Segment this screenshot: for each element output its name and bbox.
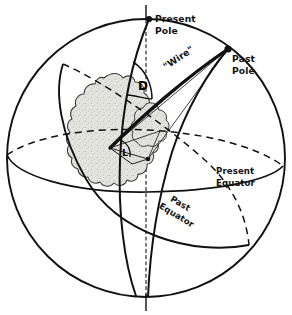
diagram-canvas: Present Pole Past Pole "Wire" D L Presen… — [0, 0, 292, 315]
inclination-angle-label: L — [122, 147, 128, 158]
present-pole-label-line1: Present — [155, 13, 196, 24]
paleomagnetic-sphere-figure: Present Pole Past Pole "Wire" D L Presen… — [0, 0, 292, 315]
present-equator-label-line1: Present — [216, 166, 254, 176]
declination-angle-label: D — [138, 79, 148, 93]
site-marker — [146, 157, 151, 162]
past-pole-label-line2: Pole — [232, 65, 255, 76]
present-pole-label-line2: Pole — [155, 25, 178, 36]
past-pole-label-line1: Past — [232, 53, 255, 64]
present-pole-marker — [146, 16, 152, 22]
past-pole-marker — [224, 45, 231, 52]
label-past-pole: Past Pole — [232, 53, 255, 76]
present-equator-label-line2: Equator — [216, 178, 256, 188]
